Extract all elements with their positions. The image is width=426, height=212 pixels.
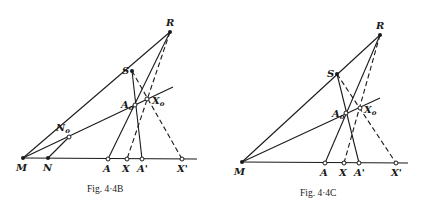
point-xp-b (180, 157, 184, 161)
figure-4-4c: R S M Ao Xo A X A' X' Fig. 4·4C (233, 20, 408, 198)
figure-4-4b: R S M N No Ao Xo A X A' X' Fig. 4·4B (15, 17, 197, 194)
point-x-b (125, 157, 129, 161)
line-n-n0 (48, 137, 69, 158)
point-a0-b (133, 103, 137, 107)
label-r-b: R (165, 17, 174, 28)
point-a-b (106, 157, 110, 161)
caption-c: Fig. 4·4C (300, 188, 336, 198)
line-m-r-c (242, 35, 380, 162)
line-s-xp-b (132, 71, 182, 159)
point-s-b (130, 69, 134, 73)
label-s-b: S (122, 65, 129, 76)
label-xp-b: X' (176, 163, 188, 174)
label-x-b: X (121, 163, 131, 174)
line-s-xp-c (337, 74, 396, 163)
point-n0-b (67, 135, 71, 139)
label-r-c: R (375, 20, 384, 31)
point-n-b (46, 156, 50, 160)
label-ap-b: A' (136, 163, 148, 174)
label-a-c: A (319, 167, 328, 178)
point-m-c (240, 160, 244, 164)
diagram-canvas: R S M N No Ao Xo A X A' X' Fig. 4·4B R S… (0, 0, 426, 212)
label-m-b: M (15, 162, 28, 173)
point-ap-c (357, 161, 361, 165)
label-xp-c: X' (390, 167, 402, 178)
point-xp-c (394, 161, 398, 165)
label-a-b: A (102, 163, 111, 174)
point-x0-b (145, 97, 149, 101)
point-r-c (378, 33, 382, 37)
point-a0-c (344, 111, 348, 115)
line-m-r-b (23, 32, 170, 158)
point-m-b (21, 156, 25, 160)
point-a-c (323, 161, 327, 165)
point-ap-b (140, 157, 144, 161)
label-x0-c: Xo (363, 104, 377, 117)
label-a0-c: Ao (331, 108, 345, 121)
line-r-x-c (344, 35, 380, 163)
caption-b: Fig. 4·4B (87, 184, 123, 194)
point-x-c (342, 161, 346, 165)
point-r-b (168, 30, 172, 34)
line-m-x0-b (23, 87, 173, 158)
label-x-c: X (338, 167, 348, 178)
label-a0-b: Ao (120, 99, 134, 112)
label-ap-c: A' (353, 167, 365, 178)
label-x0-b: Xo (151, 95, 165, 108)
line-s-ap-b (132, 71, 142, 159)
label-n0-b: No (55, 122, 70, 135)
line-r-a-c (325, 35, 380, 163)
label-n-b: N (42, 162, 53, 173)
point-s-c (335, 72, 339, 76)
label-s-c: S (327, 68, 334, 79)
label-m-c: M (233, 166, 246, 177)
point-x0-c (358, 106, 362, 110)
line-r-a-b (108, 32, 170, 159)
